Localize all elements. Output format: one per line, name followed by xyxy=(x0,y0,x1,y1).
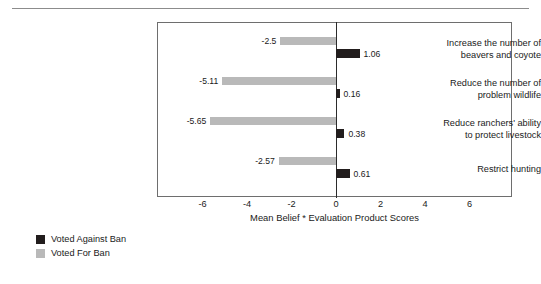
value-label-voted-for-ban-2: -5.65 xyxy=(176,116,206,126)
bar-voted-against-ban-0 xyxy=(336,49,360,58)
chart-legend: Voted Against Ban Voted For Ban xyxy=(36,232,126,260)
legend-item-voted-for-ban: Voted For Ban xyxy=(36,246,126,260)
legend-item-voted-against-ban: Voted Against Ban xyxy=(36,232,126,246)
category-label-3: Restrict hunting xyxy=(393,164,541,176)
x-tick--4: -4 xyxy=(232,199,262,209)
value-label-voted-for-ban-3: -2.57 xyxy=(245,156,275,166)
x-tick--6: -6 xyxy=(188,199,218,209)
bar-voted-for-ban-3 xyxy=(279,157,336,165)
category-label-0: Increase the number of beavers and coyot… xyxy=(393,38,541,61)
x-tick-2: 2 xyxy=(366,199,396,209)
x-tick-6: 6 xyxy=(455,199,485,209)
category-label-2-line-1: to protect livestock xyxy=(393,130,541,142)
header-divider xyxy=(12,8,529,9)
x-tick-4: 4 xyxy=(410,199,440,209)
category-label-1: Reduce the number of problem wildlife xyxy=(393,78,541,101)
category-label-2: Reduce ranchers' ability to protect live… xyxy=(393,118,541,141)
category-label-0-line-0: Increase the number of xyxy=(393,38,541,50)
value-label-voted-for-ban-1: -5.11 xyxy=(188,76,218,86)
value-label-voted-against-ban-3: 0.61 xyxy=(354,169,371,179)
chart-figure: Increase the number of beavers and coyot… xyxy=(0,0,541,284)
bar-voted-for-ban-2 xyxy=(210,117,336,125)
legend-label-against: Voted Against Ban xyxy=(51,234,126,244)
value-label-voted-against-ban-2: 0.38 xyxy=(348,129,365,139)
legend-label-for: Voted For Ban xyxy=(51,248,110,258)
value-label-voted-against-ban-1: 0.16 xyxy=(344,89,361,99)
x-axis-title: Mean Belief * Evaluation Product Scores xyxy=(157,212,512,223)
value-label-voted-against-ban-0: 1.06 xyxy=(364,49,381,59)
legend-swatch-icon-for xyxy=(36,249,45,258)
category-label-1-line-1: problem wildlife xyxy=(393,90,541,102)
bar-voted-for-ban-0 xyxy=(280,37,336,45)
category-label-1-line-0: Reduce the number of xyxy=(393,78,541,90)
category-label-2-line-0: Reduce ranchers' ability xyxy=(393,118,541,130)
x-tick--2: -2 xyxy=(277,199,307,209)
bar-voted-against-ban-1 xyxy=(336,89,340,98)
legend-swatch-icon-against xyxy=(36,235,45,244)
category-label-0-line-1: beavers and coyote xyxy=(393,50,541,62)
bar-voted-against-ban-2 xyxy=(336,129,344,138)
x-tick-0: 0 xyxy=(321,199,351,209)
bar-voted-for-ban-1 xyxy=(222,77,336,85)
value-label-voted-for-ban-0: -2.5 xyxy=(246,36,276,46)
category-label-3-line-0: Restrict hunting xyxy=(393,164,541,176)
bar-voted-against-ban-3 xyxy=(336,169,350,178)
